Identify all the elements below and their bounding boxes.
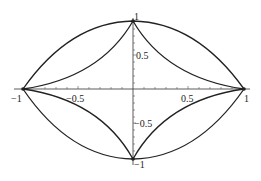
y-label-neg05: −0.5	[134, 118, 152, 129]
y-label-pos05: 0.5	[136, 50, 149, 61]
y-label-neg1: −1	[134, 159, 145, 170]
x-label-pos1: 1	[244, 93, 249, 104]
astroid-curve	[23, 21, 244, 159]
y-label-pos1: 1	[134, 11, 139, 22]
x-label-neg05: −0.5	[66, 93, 84, 104]
cusp-left	[21, 87, 25, 91]
x-label-pos05: 0.5	[181, 93, 194, 104]
x-label-neg1: −1	[11, 93, 22, 104]
cusp-right	[242, 87, 246, 91]
x-ticks	[45, 86, 232, 89]
outer-lens-curve	[23, 21, 244, 159]
y-ticks	[133, 29, 136, 151]
astroid-plot: −1 −0.5 0.5 1 1 0.5 −0.5 −1	[0, 0, 261, 181]
